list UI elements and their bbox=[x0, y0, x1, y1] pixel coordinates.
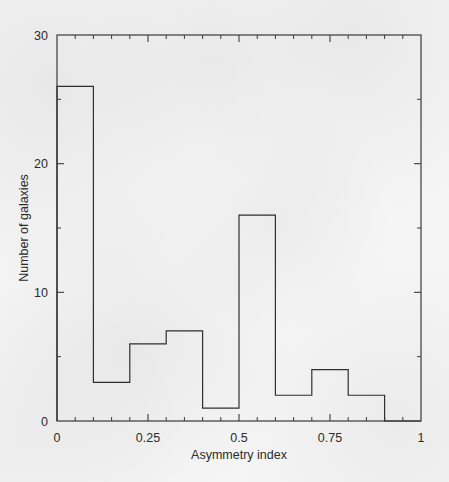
y-axis-tick-labels: 0102030 bbox=[34, 29, 48, 429]
y-tick-label: 0 bbox=[41, 415, 48, 429]
histogram-chart: 00.250.50.751 0102030 Asymmetry index Nu… bbox=[0, 0, 449, 482]
chart-svg: 00.250.50.751 0102030 Asymmetry index Nu… bbox=[0, 0, 449, 482]
x-tick-label: 1 bbox=[418, 431, 425, 445]
y-tick-label: 10 bbox=[34, 286, 48, 300]
x-axis-title: Asymmetry index bbox=[191, 448, 288, 462]
x-tick-label: 0 bbox=[54, 431, 61, 445]
x-tick-label: 0.5 bbox=[230, 431, 247, 445]
histogram-series bbox=[57, 86, 421, 421]
y-axis-title: Number of galaxies bbox=[17, 174, 31, 282]
y-tick-label: 30 bbox=[34, 29, 48, 43]
x-axis-tick-labels: 00.250.50.751 bbox=[54, 431, 425, 445]
y-tick-label: 20 bbox=[34, 157, 48, 171]
x-tick-label: 0.75 bbox=[318, 431, 342, 445]
histogram-step-outline bbox=[57, 86, 421, 421]
x-tick-label: 0.25 bbox=[136, 431, 160, 445]
